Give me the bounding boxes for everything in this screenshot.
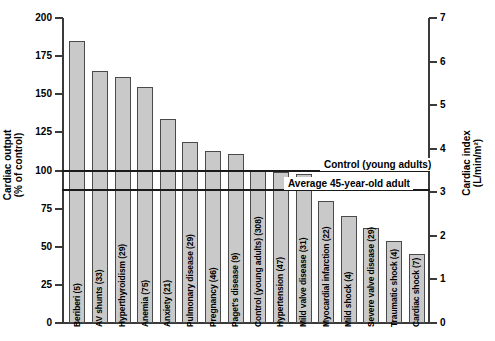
- y-tick-label-right: 4: [440, 144, 470, 154]
- y-tick-label-left: 25: [22, 280, 52, 290]
- y-tick-label-right: 7: [440, 13, 470, 23]
- y-tick-label-left: 125: [22, 127, 52, 137]
- y-tick-right: [429, 17, 437, 19]
- bar-category-label: Mild shock (4): [344, 272, 353, 327]
- y-tick-left: [55, 208, 63, 210]
- bar-category-label: Traumatic shock (4): [390, 249, 399, 327]
- cardiac-output-bar-chart: Cardiac output (% of control) Cardiac in…: [0, 0, 495, 341]
- y-tick-label-left: 200: [22, 13, 52, 23]
- y-tick-left: [55, 55, 63, 57]
- y-tick-left: [55, 17, 63, 19]
- y-tick-left: [55, 131, 63, 133]
- y-axis-left-title: Cardiac output (% of control): [2, 105, 24, 225]
- y-tick-label-left: 175: [22, 51, 52, 61]
- y-tick-right: [429, 322, 437, 324]
- y-tick-label-left: 50: [22, 242, 52, 252]
- bar-category-label: Anemia (75): [141, 280, 150, 327]
- bar-category-label: Paget's disease (9): [231, 253, 240, 327]
- y-tick-left: [55, 284, 63, 286]
- y-tick-label-left: 0: [22, 318, 52, 328]
- y-tick-left: [55, 322, 63, 324]
- y-tick-left: [55, 246, 63, 248]
- bar-category-label: Anxiety (21): [163, 280, 172, 327]
- bar-category-label: Mild valve disease (31): [299, 238, 308, 327]
- y-tick-label-left: 150: [22, 89, 52, 99]
- y-tick-label-left: 75: [22, 204, 52, 214]
- y-tick-label-right: 5: [440, 100, 470, 110]
- y-tick-left: [55, 93, 63, 95]
- bar: [69, 41, 85, 323]
- bar-category-label: Myocardial infarction (22): [322, 227, 331, 327]
- bar-category-label: Severe valve disease (29): [367, 227, 376, 327]
- y-axis-right-title: Cardiac index (L/min/m²): [461, 103, 483, 223]
- y-tick-label-right: 6: [440, 57, 470, 67]
- bar-category-label: Hypertension (47): [276, 257, 285, 327]
- y-tick-right: [429, 148, 437, 150]
- bar-category-label: Cardiac shock (7): [412, 258, 421, 327]
- y-tick-label-right: 2: [440, 231, 470, 241]
- bar-category-label: Hyperthyroidism (29): [118, 244, 127, 327]
- y-tick-right: [429, 235, 437, 237]
- bar-category-label: Pulmonary disease (29): [186, 234, 195, 327]
- y-tick-right: [429, 278, 437, 280]
- bar-category-label: Control (young adults) (308): [254, 216, 263, 327]
- y-tick-label-right: 1: [440, 274, 470, 284]
- bar-category-label: Pregnancy (46): [209, 267, 218, 327]
- y-tick-label-left: 100: [22, 166, 52, 176]
- y-tick-right: [429, 191, 437, 193]
- y-tick-right: [429, 61, 437, 63]
- reference-line-label: Average 45-year-old adult: [284, 177, 413, 190]
- reference-line-label: Control (young adults): [320, 158, 434, 171]
- y-tick-right: [429, 104, 437, 106]
- y-tick-label-right: 0: [440, 318, 470, 328]
- y-tick-label-right: 3: [440, 187, 470, 197]
- bar-category-label: AV shunts (33): [95, 270, 104, 327]
- bar-category-label: Beriberi (5): [73, 283, 82, 327]
